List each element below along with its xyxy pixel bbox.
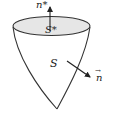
top-surface-label: S* — [45, 24, 57, 35]
lateral-surface-label: S — [50, 57, 58, 70]
vector-arrow-mark: → — [95, 67, 101, 75]
top-normal-label: n* — [36, 0, 47, 10]
cone-right-edge — [57, 27, 90, 109]
cone-diagram: n* S* S n → — [0, 0, 116, 117]
lateral-normal-arrow — [67, 61, 90, 77]
